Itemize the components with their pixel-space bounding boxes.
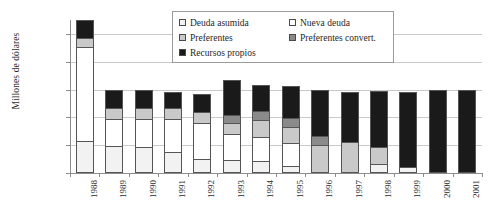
x-tick-mark	[276, 173, 277, 177]
x-tick-mark	[99, 173, 100, 177]
x-axis-label-1994: 1994	[265, 180, 275, 214]
legend-swatch-icon	[179, 19, 186, 26]
legend-label: Deuda asumida	[190, 18, 249, 28]
x-tick-mark	[158, 173, 159, 177]
x-tick-mark	[247, 173, 248, 177]
legend-swatch-icon	[179, 49, 186, 56]
x-axis-label-1997: 1997	[354, 180, 364, 214]
x-tick-mark	[129, 173, 130, 177]
x-axis-label-1990: 1990	[148, 180, 158, 214]
x-axis-label-2001: 2001	[471, 180, 481, 214]
x-axis-label-1992: 1992	[206, 180, 216, 214]
legend-label: Preferentes convert.	[300, 33, 376, 43]
x-tick-mark	[335, 173, 336, 177]
x-axis-label-1991: 1991	[177, 180, 187, 214]
x-tick-mark	[453, 173, 454, 177]
legend-label: Recursos propios	[190, 48, 256, 58]
y-axis-title: Millones de dólares	[11, 1, 21, 141]
x-axis-label-2000: 2000	[442, 180, 452, 214]
legend-label: Nueva deuda	[300, 18, 350, 28]
legend-item-nueva-deuda: Nueva deuda	[289, 18, 395, 28]
x-axis-label-1988: 1988	[89, 180, 99, 214]
x-tick-mark	[364, 173, 365, 177]
legend-item-recursos-propios: Recursos propios	[179, 48, 289, 58]
x-axis-label-1998: 1998	[383, 180, 393, 214]
legend-swatch-icon	[289, 34, 296, 41]
x-tick-mark	[305, 173, 306, 177]
x-tick-mark	[217, 173, 218, 177]
x-axis-label-1996: 1996	[324, 180, 334, 214]
x-axis-label-1999: 1999	[412, 180, 422, 214]
x-tick-mark	[394, 173, 395, 177]
x-axis-label-1995: 1995	[295, 180, 305, 214]
x-axis-label-1989: 1989	[118, 180, 128, 214]
x-axis-label-1993: 1993	[236, 180, 246, 214]
x-tick-mark	[423, 173, 424, 177]
legend-label: Preferentes	[190, 33, 233, 43]
stacked-bar-chart: Millones de dólares 05.00010.00015.00020…	[0, 0, 490, 214]
x-tick-mark	[188, 173, 189, 177]
legend-swatch-icon	[179, 34, 186, 41]
top-caption	[0, 0, 490, 6]
x-tick-mark	[482, 173, 483, 177]
x-tick-mark	[70, 173, 71, 177]
legend-item-preferentes: Preferentes	[179, 33, 289, 43]
legend-item-deuda-asumida: Deuda asumida	[179, 18, 289, 28]
legend-swatch-icon	[289, 19, 296, 26]
legend-item-preferentes-convert: Preferentes convert.	[289, 33, 395, 43]
legend: Deuda asumidaNueva deudaPreferentesPrefe…	[172, 11, 394, 63]
